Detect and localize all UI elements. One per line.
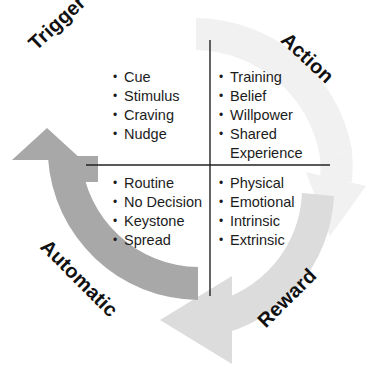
list-item: Cue xyxy=(113,68,180,87)
list-item: No Decision xyxy=(113,193,202,212)
list-item: Routine xyxy=(113,174,202,193)
list-item: Training xyxy=(219,68,303,87)
list-item: Stimulus xyxy=(113,87,180,106)
list-item: Keystone xyxy=(113,212,202,231)
list-item: Nudge xyxy=(113,125,180,144)
list-item: Spread xyxy=(113,231,202,250)
habit-cycle-diagram: Trigger Action Automatic Reward Cue Stim… xyxy=(0,0,391,368)
list-item: Shared xyxy=(219,125,303,144)
list-item: Physical xyxy=(219,174,294,193)
list-item: Willpower xyxy=(219,106,303,125)
list-item: Craving xyxy=(113,106,180,125)
quadrant-list-reward: Physical Emotional Intrinsic Extrinsic xyxy=(219,174,294,250)
list-item: Belief xyxy=(219,87,303,106)
list-item-continuation: Experience xyxy=(219,144,303,163)
quadrant-list-automatic: Routine No Decision Keystone Spread xyxy=(113,174,202,250)
quadrant-list-action: Training Belief Willpower Shared Experie… xyxy=(219,68,303,163)
list-item: Extrinsic xyxy=(219,231,294,250)
list-item: Emotional xyxy=(219,193,294,212)
quadrant-list-trigger: Cue Stimulus Craving Nudge xyxy=(113,68,180,144)
list-item: Intrinsic xyxy=(219,212,294,231)
